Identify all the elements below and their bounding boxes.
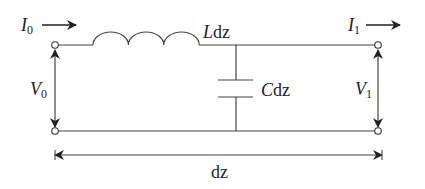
current-in-label: I0 [20,15,33,37]
capacitor-label: Cdz [261,80,290,100]
capacitor-icon [218,45,253,131]
length-dimension [55,150,382,160]
inductor-label: Ldz [202,22,230,42]
transmission-line-diagram: I0 I1 Ldz Cdz V0 V1 dz [0,0,425,189]
terminal-out-top [375,42,382,49]
length-label: dz [211,162,228,182]
current-out-label: I1 [347,15,360,37]
terminal-out-bottom [375,128,382,135]
inductor-icon [93,32,199,45]
voltage-in-label: V0 [30,79,47,101]
terminal-in-top [52,42,59,49]
terminal-in-bottom [52,128,59,135]
voltage-out-label: V1 [355,79,372,101]
